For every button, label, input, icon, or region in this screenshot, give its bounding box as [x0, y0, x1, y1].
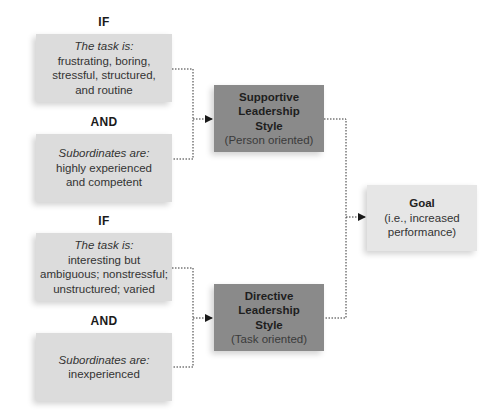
- subordinates-lead: Subordinates are:: [59, 146, 150, 161]
- task-lead: The task is:: [75, 238, 134, 253]
- and-label-supportive: AND: [36, 115, 172, 129]
- style-subtitle: (Person oriented): [225, 133, 314, 148]
- subordinates-lead: Subordinates are:: [59, 353, 150, 368]
- goal-line: performance): [388, 225, 456, 240]
- goal-line: (i.e., increased: [384, 211, 459, 226]
- task-line: ambiguous; nonstressful;: [40, 267, 168, 282]
- subordinates-line: inexperienced: [68, 367, 140, 382]
- task-condition-box-directive: The task is: interesting but ambiguous; …: [36, 233, 172, 301]
- goal-title: Goal: [409, 196, 435, 211]
- goal-box: Goal (i.e., increased performance): [367, 185, 477, 251]
- if-label-supportive: IF: [36, 15, 172, 29]
- task-line: stressful, structured,: [52, 68, 156, 83]
- task-line: unstructured; varied: [53, 282, 155, 297]
- style-subtitle: (Task oriented): [231, 332, 307, 347]
- subordinates-condition-box-directive: Subordinates are: inexperienced: [36, 333, 172, 401]
- style-title-line: Leadership: [238, 104, 299, 119]
- style-title-line: Style: [255, 119, 283, 134]
- style-title-line: Directive: [245, 289, 294, 304]
- subordinates-line: highly experienced: [56, 161, 152, 176]
- supportive-leadership-style-box: Supportive Leadership Style (Person orie…: [214, 85, 324, 152]
- style-title-line: Style: [255, 318, 283, 333]
- task-line: and routine: [75, 83, 133, 98]
- and-label-directive: AND: [36, 314, 172, 328]
- subordinates-line: and competent: [66, 175, 142, 190]
- style-title-line: Leadership: [238, 303, 299, 318]
- if-label-directive: IF: [36, 214, 172, 228]
- style-title-line: Supportive: [239, 90, 299, 105]
- subordinates-condition-box-supportive: Subordinates are: highly experienced and…: [36, 134, 172, 202]
- task-line: interesting but: [68, 253, 140, 268]
- directive-leadership-style-box: Directive Leadership Style (Task oriente…: [214, 284, 324, 351]
- task-condition-box-supportive: The task is: frustrating, boring, stress…: [36, 34, 172, 102]
- task-line: frustrating, boring,: [58, 54, 151, 69]
- task-lead: The task is:: [75, 39, 134, 54]
